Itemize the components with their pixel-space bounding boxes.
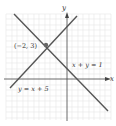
graph: y x (−2, 3) x + y = 1 y = x + 5 (0, 0, 116, 126)
intersection-point (44, 43, 48, 47)
line1-label: x + y = 1 (72, 61, 103, 69)
x-axis-label: x (110, 75, 114, 83)
point-label: (−2, 3) (14, 42, 37, 50)
y-axis-label: y (61, 4, 67, 12)
line2-label: y = x + 5 (17, 85, 49, 93)
y-axis-arrow-icon (65, 12, 69, 18)
